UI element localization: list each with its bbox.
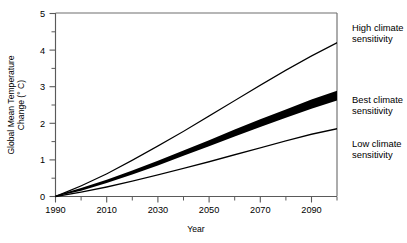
y-tick-label-5: 5	[40, 9, 45, 19]
y-axis-title-line1: Global Mean Temperature	[6, 55, 16, 154]
y-tick-label-3: 3	[40, 82, 45, 92]
x-tick-label-1990: 1990	[45, 205, 65, 215]
annotation-high-line1: High climate	[352, 22, 404, 33]
x-tick-label-2090: 2090	[301, 205, 321, 215]
annotation-best-line2: sensitivity	[352, 105, 393, 116]
y-tick-label-0: 0	[40, 192, 45, 202]
chart-figure: 0 1 2 3 4 5 Global Mean Temperature Chan…	[0, 0, 407, 243]
annotation-low-line2: sensitivity	[352, 149, 393, 160]
x-tick-label-2070: 2070	[250, 205, 270, 215]
y-tick-label-4: 4	[40, 46, 45, 56]
annotation-high-line2: sensitivity	[352, 33, 393, 44]
temperature-projection-chart: 0 1 2 3 4 5 Global Mean Temperature Chan…	[0, 0, 407, 243]
x-tick-label-2050: 2050	[199, 205, 219, 215]
x-axis-title: Year	[187, 224, 205, 234]
x-tick-label-2030: 2030	[148, 205, 168, 215]
y-axis-title-line2: Change (° C)	[16, 80, 26, 130]
x-tick-label-2010: 2010	[96, 205, 116, 215]
annotation-low-line1: Low climate	[352, 138, 402, 149]
annotation-best-line1: Best climate	[352, 94, 403, 105]
y-tick-label-2: 2	[40, 119, 45, 129]
y-tick-label-1: 1	[40, 155, 45, 165]
